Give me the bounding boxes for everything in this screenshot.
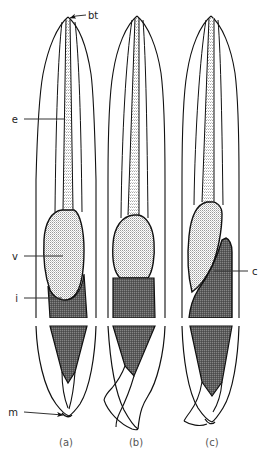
panel-b-break-gap	[100, 318, 174, 326]
panel-b-vesicle-fill	[113, 215, 154, 278]
caption-panel-c: (c)	[205, 437, 218, 448]
panel-a-vesicle-fill	[44, 210, 84, 300]
panel-b-dark-fill-upper	[113, 278, 155, 318]
figure-root: bt e v i m c (a) (b) (c)	[0, 0, 272, 454]
caption-panel-a: (a)	[59, 437, 73, 448]
label-v-text: v	[12, 251, 18, 262]
tooth-diagram-svg: bt e v i m c (a) (b) (c)	[0, 0, 272, 454]
label-i-text: i	[15, 293, 18, 304]
label-bt-text: bt	[88, 10, 98, 21]
panel-a-break-gap	[28, 318, 104, 326]
caption-panel-b: (b)	[129, 437, 143, 448]
label-m-text: m	[8, 407, 18, 418]
label-c-text: c	[252, 266, 258, 277]
panel-c-break-gap	[174, 318, 246, 326]
label-e-text: e	[12, 114, 18, 125]
